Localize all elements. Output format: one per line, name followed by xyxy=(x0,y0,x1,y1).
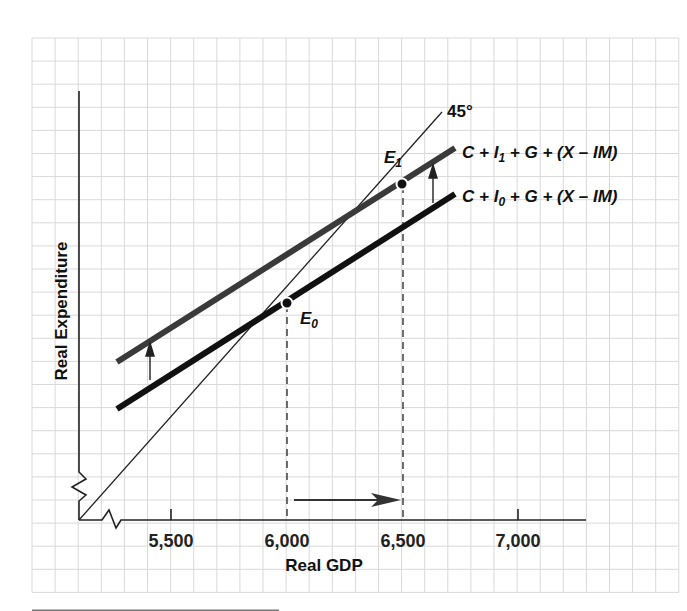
tick-label-7000: 7,000 xyxy=(495,531,540,551)
grid xyxy=(32,38,679,592)
y-axis-label: Real Expenditure xyxy=(52,242,71,381)
x-axis-label: Real GDP xyxy=(285,556,362,575)
shift-arrows xyxy=(146,165,437,380)
lower-line-label: C + I0 + G + (X – IM) xyxy=(462,187,618,209)
e0-point xyxy=(282,298,293,309)
forty-five-degree-label: 45° xyxy=(447,102,473,121)
upper-line-label: C + I1 + G + (X – IM) xyxy=(462,143,618,165)
gdp-increase-arrow xyxy=(294,493,401,507)
e1-label: E1 xyxy=(384,148,402,170)
expenditure-diagram: Real Expenditure Real GDP 5,500 6,000 6,… xyxy=(0,0,687,611)
e0-label: E0 xyxy=(300,309,318,331)
tick-label-6000: 6,000 xyxy=(264,531,309,551)
e1-point xyxy=(397,179,408,190)
y-axis xyxy=(72,91,86,520)
tick-label-6500: 6,500 xyxy=(380,531,425,551)
tick-label-5500: 5,500 xyxy=(148,531,193,551)
